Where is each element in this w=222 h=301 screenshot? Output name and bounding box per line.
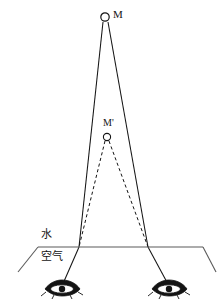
incident-rays-group	[79, 22, 148, 247]
object-point-label: M	[113, 9, 123, 20]
virtual-rays-group	[79, 141, 148, 247]
eye-right-lash-a	[148, 292, 153, 296]
eye-right	[148, 280, 190, 299]
eye-left-lash-b	[52, 295, 54, 299]
refracted-rays-group	[62, 247, 169, 286]
diagram-canvas	[0, 0, 222, 301]
image-point-marker	[103, 133, 110, 140]
eye-left-lash-a	[41, 292, 46, 296]
upper-medium-label: 水	[41, 229, 52, 240]
eye-left-lash-d	[78, 292, 83, 295]
eye-right-lash-d	[185, 292, 190, 295]
incident-ray-right	[108, 22, 148, 247]
eye-left-lash-c	[70, 295, 72, 299]
image-point-label: M'	[103, 118, 114, 128]
eye-left	[41, 280, 83, 299]
interface-right-edge	[203, 247, 216, 272]
virtual-ray-left	[79, 141, 105, 247]
lower-medium-label: 空气	[41, 251, 63, 262]
interface-left-edge	[18, 247, 38, 272]
eye-left-pupil	[59, 286, 65, 292]
virtual-ray-right	[109, 141, 148, 247]
eye-right-lash-b	[159, 295, 161, 299]
refraction-diagram: M M' 水 空气	[0, 0, 222, 301]
eye-right-pupil	[166, 286, 172, 292]
object-point-marker	[101, 13, 109, 21]
incident-ray-left	[79, 22, 103, 247]
eye-right-lash-c	[177, 295, 179, 299]
